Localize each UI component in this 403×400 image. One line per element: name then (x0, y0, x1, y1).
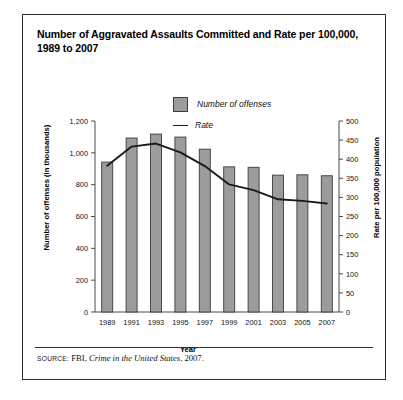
y-axis-left-title: Number of offenses (in thousands) (42, 123, 51, 253)
source-publication: Crime in the United States (89, 353, 180, 363)
bar (151, 134, 162, 312)
source-agency: FBI, (69, 353, 89, 363)
x-axis-tick: 1995 (172, 318, 188, 327)
y-axis-right-tick: 400 (346, 155, 358, 164)
x-axis-tick: 1997 (197, 318, 213, 327)
y-axis-right-tick: 500 (346, 117, 358, 126)
bar (321, 176, 332, 312)
y-axis-right-tick: 50 (346, 289, 354, 298)
y-axis-left-tick: 200 (76, 276, 88, 285)
y-axis-right-title: Rate per 100,000 population (372, 123, 381, 253)
y-axis-left-tick: 1,200 (70, 117, 89, 126)
y-axis-right-tick: 0 (346, 308, 350, 317)
y-axis-left-tick: 400 (76, 244, 88, 253)
y-axis-right-tick: 450 (346, 136, 358, 145)
y-axis-right-tick: 350 (346, 174, 358, 183)
y-axis-left-tick: 800 (76, 180, 88, 189)
plot-area: 02004006008001,0001,20005010015020025030… (23, 15, 387, 381)
bar (126, 138, 137, 312)
footer-divider (35, 347, 373, 348)
x-axis-tick: 1989 (99, 318, 115, 327)
x-axis-tick: 1991 (123, 318, 139, 327)
chart-canvas: 02004006008001,0001,20005010015020025030… (23, 15, 387, 381)
figure-panel: Number of Aggravated Assaults Committed … (22, 14, 386, 380)
bar (175, 137, 186, 312)
source-year: , 2007. (180, 353, 204, 363)
bar (102, 162, 113, 312)
x-axis-tick: 2003 (270, 318, 286, 327)
x-axis-tick: 1999 (221, 318, 237, 327)
y-axis-right-tick: 250 (346, 212, 358, 221)
y-axis-right-tick: 150 (346, 250, 358, 259)
x-axis-tick: 2007 (319, 318, 335, 327)
y-axis-left-tick: 600 (76, 212, 88, 221)
y-axis-right-tick: 300 (346, 193, 358, 202)
y-axis-right-tick: 200 (346, 231, 358, 240)
bar (224, 167, 235, 312)
source-note: SOURCE: FBI, Crime in the United States,… (37, 353, 373, 363)
y-axis-left-tick: 0 (84, 308, 88, 317)
x-axis-tick: 2001 (245, 318, 261, 327)
bar (199, 149, 210, 312)
source-keyword: SOURCE: (37, 355, 69, 362)
y-axis-left-tick: 1,000 (70, 149, 89, 158)
x-axis-tick: 1993 (148, 318, 164, 327)
y-axis-right-tick: 100 (346, 270, 358, 279)
x-axis-tick: 2005 (294, 318, 310, 327)
bar (297, 175, 308, 312)
bar (273, 175, 284, 312)
rate-line (107, 144, 327, 204)
